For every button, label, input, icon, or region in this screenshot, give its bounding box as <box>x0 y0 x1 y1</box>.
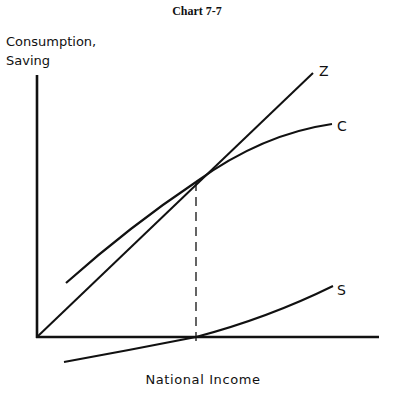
c-label: C <box>337 118 347 134</box>
z-line <box>37 73 313 337</box>
s-label: S <box>337 282 346 298</box>
consumption-curve <box>66 124 332 283</box>
saving-curve <box>64 286 333 362</box>
x-axis-label: National Income <box>0 372 394 387</box>
chart-plot: Z C S <box>0 0 394 399</box>
z-label: Z <box>319 63 329 79</box>
